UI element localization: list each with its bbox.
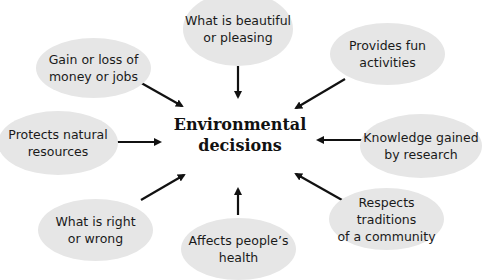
node-health: Affects people’s health bbox=[181, 218, 296, 280]
center-topic: Environmental decisions bbox=[158, 114, 322, 156]
node-fun: Provides fun activities bbox=[330, 23, 445, 85]
node-knowledge: Knowledge gained by research bbox=[360, 114, 482, 178]
node-money: Gain or loss of money or jobs bbox=[36, 38, 151, 98]
arrow-ethics bbox=[141, 175, 184, 200]
node-ethics: What is right or wrong bbox=[38, 199, 153, 261]
node-nature: Protects natural resources bbox=[0, 111, 118, 175]
arrow-fun bbox=[296, 79, 345, 108]
arrow-money bbox=[136, 80, 182, 106]
node-traditions: Respects traditions of a community bbox=[329, 188, 444, 250]
